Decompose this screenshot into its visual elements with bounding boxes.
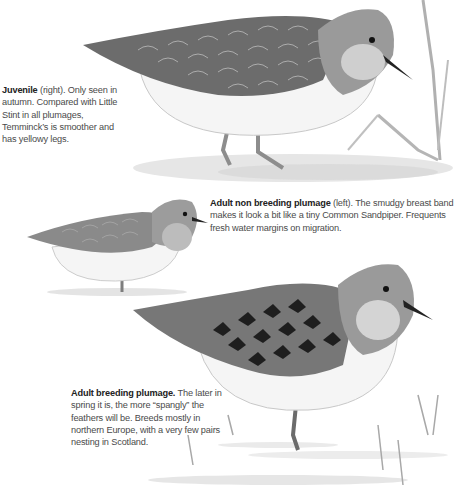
juvenile-bird-illustration [78,0,466,195]
adult-non-breeding-caption: Adult non breeding plumage (left). The s… [210,197,460,234]
juvenile-caption-title: Juvenile [2,85,38,95]
adult-non-breeding-caption-title: Adult non breeding plumage [210,198,331,208]
adult-breeding-bird-illustration [128,255,466,503]
adult-breeding-caption-title: Adult breeding plumage. [71,388,175,398]
juvenile-caption: Juvenile (right). Only seen in autumn. C… [2,84,122,145]
adult-breeding-caption: Adult breeding plumage. The later in spr… [71,387,231,448]
